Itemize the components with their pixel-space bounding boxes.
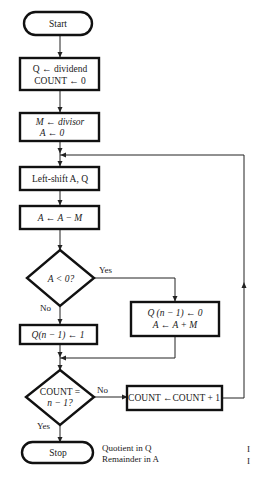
fragment-line2: I (247, 456, 250, 466)
subtract-box: A ← A − M (20, 206, 99, 229)
restore-q-text: Q (n − 1) ← 0 (147, 308, 202, 319)
start-terminal: Start (24, 12, 92, 35)
decision-a-negative-text: A < 0? (47, 274, 75, 284)
restore-a-text: A ← A + M (152, 320, 199, 330)
decision-count-yes-label: Yes (37, 421, 51, 431)
decision-a-negative: A < 0? Yes No (27, 250, 113, 313)
fragment-line1: I (247, 444, 250, 454)
init-a-text: A ← 0 (39, 128, 65, 138)
init-dividend-text: Q ← dividend (33, 64, 88, 74)
init-divisor-text: M ← divisor (35, 117, 85, 127)
set-bit-box: Q(n − 1) ← 1 (20, 325, 97, 344)
left-shift-box: Left-shift A, Q (20, 167, 99, 190)
restore-box: Q (n − 1) ← 0 A ← A + M (131, 302, 219, 336)
decision-count: COUNT = n − 1? No Yes (26, 370, 108, 431)
increment-text: COUNT ←COUNT + 1 (128, 393, 220, 403)
set-bit-text: Q(n − 1) ← 1 (32, 330, 85, 341)
left-shift-text: Left-shift A, Q (32, 174, 88, 184)
connectors (58, 35, 247, 443)
decision-count-line1: COUNT = (40, 387, 80, 397)
init-dividend-box: Q ← dividend COUNT ← 0 (20, 58, 99, 90)
stop-label: Stop (49, 448, 67, 458)
decision-count-no-label: No (97, 385, 108, 395)
init-divisor-box: M ← divisor A ← 0 (20, 113, 99, 141)
init-count-text: COUNT ← 0 (34, 76, 86, 86)
result-quotient-text: Quotient in Q (102, 443, 152, 453)
stop-terminal: Stop (22, 442, 93, 463)
subtract-text: A ← A − M (37, 213, 84, 223)
cropped-caption-fragment: I I (247, 444, 250, 466)
decision-a-negative-no-label: No (40, 303, 51, 313)
decision-a-negative-yes-label: Yes (99, 265, 113, 275)
result-annotation: Quotient in Q Remainder in A (102, 443, 159, 464)
decision-count-line2: n − 1? (47, 398, 73, 408)
increment-box: COUNT ←COUNT + 1 (127, 386, 222, 410)
start-label: Start (49, 19, 67, 29)
division-flowchart: Start Q ← dividend COUNT ← 0 M ← divisor… (0, 0, 259, 478)
result-remainder-text: Remainder in A (102, 454, 159, 464)
